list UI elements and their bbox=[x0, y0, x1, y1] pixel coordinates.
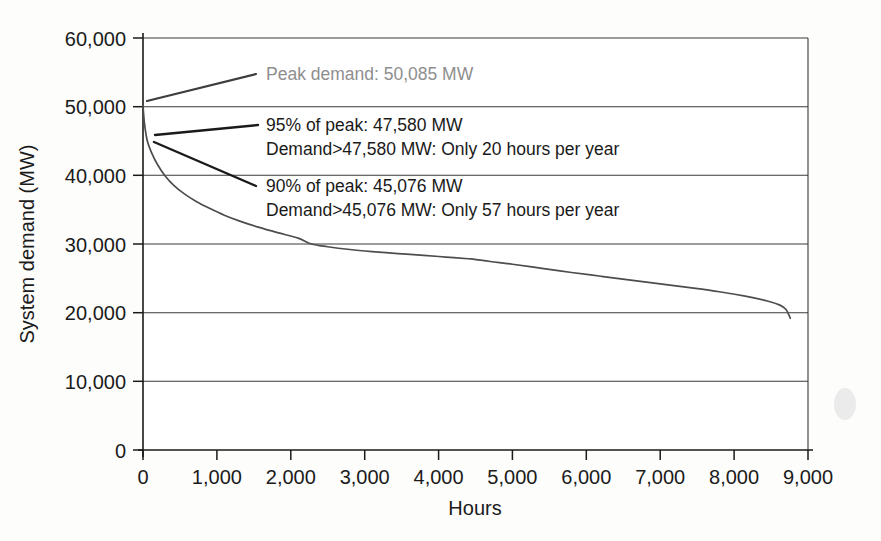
y-tick-marks bbox=[133, 38, 143, 450]
annotation-p95-line-1: 95% of peak: 47,580 MW bbox=[266, 115, 463, 135]
x-tick-marks bbox=[143, 450, 808, 460]
x-tick-label-3000: 3,000 bbox=[340, 466, 390, 488]
load-duration-curve-chart: 60,000 50,000 40,000 30,000 20,000 10,00… bbox=[0, 0, 881, 541]
y-tick-label-40000: 40,000 bbox=[65, 165, 126, 187]
annotation-peak-line-1: Peak demand: 50,085 MW bbox=[266, 64, 474, 84]
scan-artifact bbox=[834, 388, 856, 420]
x-tick-label-6000: 6,000 bbox=[561, 466, 611, 488]
x-tick-label-9000: 9,000 bbox=[783, 466, 833, 488]
y-tick-label-10000: 10,000 bbox=[65, 371, 126, 393]
x-axis-title: Hours bbox=[448, 497, 501, 519]
x-tick-label-4000: 4,000 bbox=[414, 466, 464, 488]
x-tick-label-7000: 7,000 bbox=[635, 466, 685, 488]
annotation-p95-line-2: Demand>47,580 MW: Only 20 hours per year bbox=[266, 139, 619, 159]
y-axis-title: System demand (MW) bbox=[16, 145, 38, 344]
annotation-p90-line-1: 90% of peak: 45,076 MW bbox=[266, 176, 463, 196]
y-tick-label-30000: 30,000 bbox=[65, 234, 126, 256]
y-tick-labels: 60,000 50,000 40,000 30,000 20,000 10,00… bbox=[65, 28, 126, 462]
chart-page: 60,000 50,000 40,000 30,000 20,000 10,00… bbox=[0, 0, 881, 541]
y-tick-label-50000: 50,000 bbox=[65, 96, 126, 118]
y-tick-label-20000: 20,000 bbox=[65, 302, 126, 324]
x-tick-label-0: 0 bbox=[137, 466, 148, 488]
annotation-peak: Peak demand: 50,085 MW bbox=[266, 64, 474, 84]
y-tick-label-0: 0 bbox=[115, 440, 126, 462]
annotation-p90-line-2: Demand>45,076 MW: Only 57 hours per year bbox=[266, 200, 619, 220]
x-tick-labels: 0 1,000 2,000 3,000 4,000 5,000 6,000 7,… bbox=[137, 466, 833, 488]
x-tick-label-1000: 1,000 bbox=[192, 466, 242, 488]
x-tick-label-8000: 8,000 bbox=[709, 466, 759, 488]
x-tick-label-5000: 5,000 bbox=[487, 466, 537, 488]
x-tick-label-2000: 2,000 bbox=[266, 466, 316, 488]
y-tick-label-60000: 60,000 bbox=[65, 28, 126, 50]
